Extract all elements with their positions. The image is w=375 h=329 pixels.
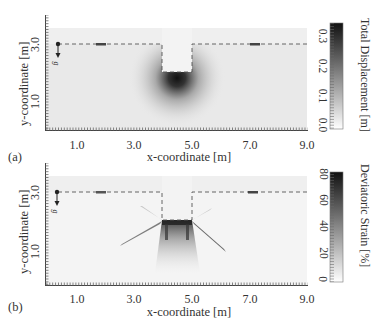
- surface-marker-left: [96, 191, 106, 194]
- cbar-a-tick-00: 0.0: [317, 118, 329, 132]
- cbar-a-tick-01: 0.1: [317, 89, 329, 103]
- cbar-b-tick-40: 40: [318, 220, 330, 232]
- x-axis-label-b: x-coordinate [m]: [147, 305, 231, 320]
- excavation-box: [162, 176, 192, 220]
- excavation-box: [162, 28, 192, 72]
- gravity-label-a: g: [52, 62, 61, 66]
- surface-marker-right: [250, 43, 260, 46]
- cbar-a-tick-03: 0.3: [317, 29, 329, 43]
- surface-marker-left: [96, 43, 106, 46]
- cbar-b-tick-0: 0: [317, 276, 329, 282]
- y-tick-1: 1.0: [28, 244, 43, 259]
- y-tick-3: 3.0: [28, 185, 43, 200]
- surface-marker-right: [248, 191, 258, 194]
- cbar-b-tick-80: 80: [318, 168, 330, 180]
- x-tick-3: 3.0: [127, 292, 142, 307]
- panel-a: g y-coordinate [m] 3.0 1.0 1.0 3.0 5.0 7…: [0, 0, 375, 165]
- cbar-b-tick-60: 60: [318, 194, 330, 206]
- y-axis-label-b: y-coordinate [m]: [17, 190, 32, 274]
- panel-b: g y-coordinate [m] 3.0 1.0 1.0 3.0 5.0 7…: [0, 148, 375, 329]
- cbar-b-tick-20: 20: [318, 247, 330, 259]
- gravity-label-b: g: [51, 210, 60, 214]
- colorbar-label-a: Total Displacement [m]: [357, 18, 372, 132]
- panel-label-b: (b): [8, 300, 23, 315]
- cbar-a-tick-02: 0.2: [317, 59, 329, 73]
- y-tick-1: 1.0: [28, 94, 43, 109]
- y-axis-label-a: y-coordinate [m]: [17, 42, 32, 126]
- colorbar-label-b: Deviatoric Strain [%]: [357, 164, 372, 267]
- x-tick-7: 7.0: [243, 292, 258, 307]
- x-tick-1: 1.0: [70, 292, 85, 307]
- y-tick-3: 3.0: [28, 37, 43, 52]
- x-tick-9: 9.0: [300, 292, 315, 307]
